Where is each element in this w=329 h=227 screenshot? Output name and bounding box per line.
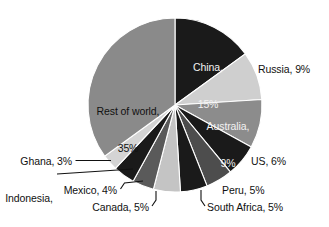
slice-label-australia: Australia, 9% bbox=[196, 96, 260, 194]
slice-label-rest-of-world-line2: 35% bbox=[84, 142, 172, 154]
slice-label-ghana: Ghana, 3% bbox=[8, 155, 72, 167]
slice-label-rest-of-world: Rest of world, 35% bbox=[84, 81, 172, 179]
slice-label-indonesia-line1: Indonesia, bbox=[1, 192, 57, 204]
pie-chart: China, 15% Russia, 9% Australia, 9% US, … bbox=[0, 0, 329, 227]
slice-label-russia: Russia, 9% bbox=[258, 63, 328, 75]
leader-line-canada bbox=[152, 191, 156, 206]
slice-label-south-africa: South Africa, 5% bbox=[207, 201, 319, 213]
slice-label-peru: Peru, 5% bbox=[222, 184, 284, 196]
slice-label-rest-of-world-line1: Rest of world, bbox=[84, 105, 172, 117]
slice-label-indonesia: Indonesia, 4% bbox=[1, 168, 57, 227]
slice-label-australia-line1: Australia, bbox=[196, 120, 260, 132]
slice-label-canada: Canada, 5% bbox=[62, 201, 149, 213]
slice-label-china-line1: China, bbox=[182, 61, 234, 73]
slice-label-us: US, 6% bbox=[251, 155, 306, 167]
